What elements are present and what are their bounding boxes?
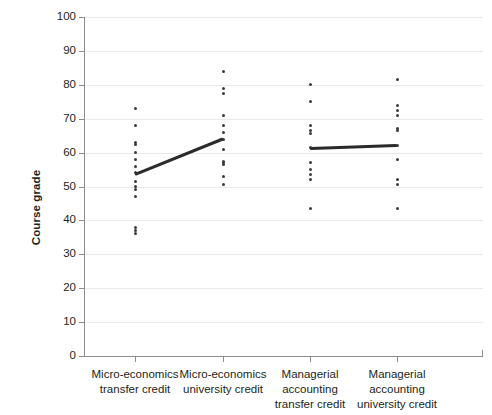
micro-economics-trend: [134, 138, 223, 176]
y-tick-label-50: 50: [36, 181, 76, 193]
y-tick-label-30: 30: [36, 248, 76, 260]
x-category-label-line: accounting: [337, 382, 457, 397]
data-point: [222, 163, 225, 166]
data-point: [134, 165, 137, 168]
plot-area: Micro-economicstransfer creditMicro-econ…: [84, 17, 483, 356]
data-point: [396, 114, 399, 117]
gridline-30: [84, 254, 483, 255]
data-point: [396, 129, 399, 132]
y-tick-mark-10: [79, 322, 84, 323]
y-tick-label-100: 100: [36, 11, 76, 23]
data-point: [309, 168, 312, 171]
data-point: [222, 92, 225, 95]
y-tick-mark-60: [79, 153, 84, 154]
y-tick-mark-70: [79, 119, 84, 120]
gridline-60: [84, 153, 483, 154]
data-point: [309, 83, 312, 86]
y-tick-mark-20: [79, 288, 84, 289]
y-tick-label-10: 10: [36, 316, 76, 328]
data-point: [309, 207, 312, 210]
gridline-80: [84, 85, 483, 86]
data-point: [134, 124, 137, 127]
data-point: [396, 109, 399, 112]
y-tick-label-40: 40: [36, 214, 76, 226]
data-point: [309, 124, 312, 127]
y-tick-label-20: 20: [36, 282, 76, 294]
data-point: [396, 104, 399, 107]
data-point: [222, 114, 225, 117]
y-tick-mark-50: [79, 187, 84, 188]
data-point: [396, 158, 399, 161]
data-point: [396, 78, 399, 81]
data-point: [222, 175, 225, 178]
data-point: [134, 107, 137, 110]
y-tick-mark-90: [79, 51, 84, 52]
x-axis-endcap: [482, 350, 483, 357]
data-point: [134, 180, 137, 183]
gridline-10: [84, 322, 483, 323]
data-point: [222, 70, 225, 73]
data-point: [134, 188, 137, 191]
y-tick-mark-0: [79, 356, 84, 357]
y-tick-label-70: 70: [36, 113, 76, 125]
gridline-20: [84, 288, 483, 289]
data-point: [222, 148, 225, 151]
y-tick-label-80: 80: [36, 79, 76, 91]
data-point: [134, 151, 137, 154]
x-category-label-line: Managerial: [337, 367, 457, 382]
data-point: [396, 207, 399, 210]
y-tick-mark-100: [79, 17, 84, 18]
x-tick-mark-0: [135, 357, 136, 362]
data-point: [222, 87, 225, 90]
y-axis-line: [84, 17, 85, 357]
y-tick-mark-30: [79, 254, 84, 255]
data-point: [309, 132, 312, 135]
data-point: [309, 161, 312, 164]
x-category-label-line: university credit: [337, 397, 457, 412]
x-category-label-3: Managerialaccountinguniversity credit: [337, 367, 457, 412]
managerial-accounting-trend: [310, 144, 397, 150]
data-point: [222, 131, 225, 134]
x-tick-mark-1: [223, 357, 224, 362]
y-tick-label-90: 90: [36, 45, 76, 57]
data-point: [309, 100, 312, 103]
data-point: [309, 178, 312, 181]
data-point: [134, 143, 137, 146]
data-point: [134, 232, 137, 235]
gridline-40: [84, 220, 483, 221]
gridline-90: [84, 51, 483, 52]
gridline-50: [84, 187, 483, 188]
data-point: [134, 195, 137, 198]
scatter-plot-figure: Course grade 0102030405060708090100 Micr…: [0, 0, 492, 415]
x-tick-mark-2: [310, 357, 311, 362]
data-point: [309, 173, 312, 176]
y-tick-label-60: 60: [36, 147, 76, 159]
y-tick-mark-40: [79, 220, 84, 221]
data-point: [222, 124, 225, 127]
x-axis-line: [84, 356, 483, 357]
data-point: [134, 158, 137, 161]
y-tick-label-0: 0: [36, 350, 76, 362]
x-tick-mark-3: [397, 357, 398, 362]
gridline-100: [84, 17, 483, 18]
data-point: [396, 178, 399, 181]
y-tick-mark-80: [79, 85, 84, 86]
gridline-70: [84, 119, 483, 120]
